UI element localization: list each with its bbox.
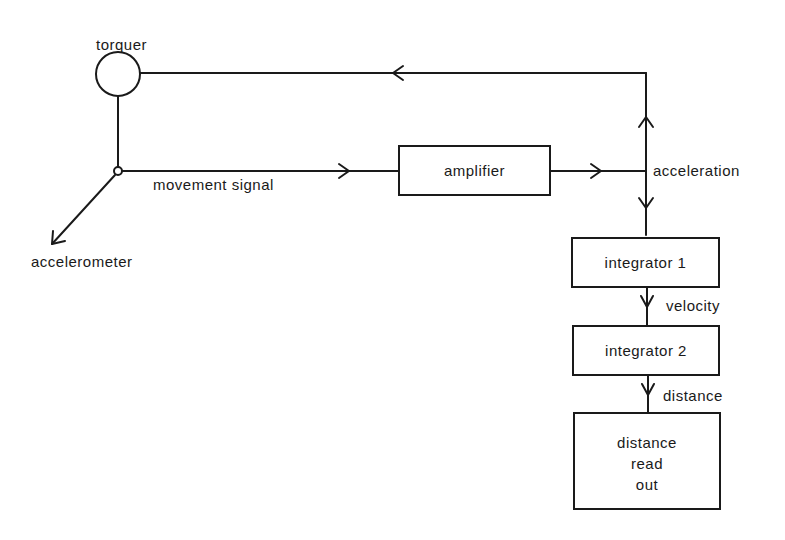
integrator-2-block: integrator 2 [572, 325, 720, 376]
distance-label: distance [663, 388, 723, 403]
readout-line-3: out [636, 474, 658, 495]
amplifier-label: amplifier [444, 162, 505, 179]
readout-line-1: distance [617, 432, 677, 453]
accelerometer-label: accelerometer [31, 254, 133, 269]
amplifier-block: amplifier [398, 145, 551, 196]
readout-line-2: read [631, 453, 663, 474]
torquer-label: torquer [96, 37, 147, 52]
integrator-1-label: integrator 1 [605, 254, 687, 271]
integrator-2-label: integrator 2 [605, 342, 687, 359]
acceleration-label: acceleration [653, 163, 740, 178]
velocity-label: velocity [666, 298, 720, 313]
movement-signal-label: movement signal [153, 177, 274, 192]
distance-readout-block: distance read out [573, 412, 721, 510]
torquer-circle [96, 52, 140, 96]
integrator-1-block: integrator 1 [571, 237, 720, 288]
junction-node [114, 167, 122, 175]
